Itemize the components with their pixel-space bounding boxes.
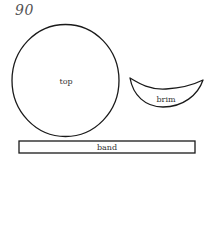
top-piece-label: top [59,77,72,86]
brim-piece-label: brim [156,95,175,104]
band-piece-label: band [97,143,117,152]
